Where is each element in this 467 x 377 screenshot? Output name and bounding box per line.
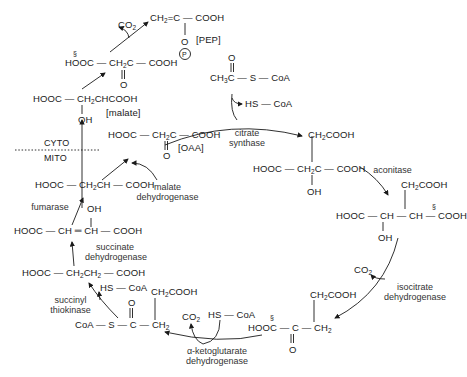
- mito-label: MITO: [44, 153, 67, 163]
- citrate-top: CH2COOH: [308, 130, 355, 140]
- hs-coa-citrate: HS — CoA: [245, 99, 292, 109]
- co2-isocitrate: CO2: [354, 265, 372, 275]
- acetyl-coa-oxygen: O: [228, 53, 236, 63]
- enzyme-isocitrate-dehydrogenase: isocitratedehydrogenase: [380, 282, 450, 302]
- citrate-main: HOOC — CH2C — COOH: [253, 164, 366, 174]
- oaa-oxygen: O: [163, 151, 171, 161]
- citrate-oh: OH: [307, 187, 321, 197]
- section-mark: §: [270, 314, 274, 321]
- pep-label: [PEP]: [196, 35, 221, 45]
- hs-coa-succinyl: HS — CoA: [100, 283, 147, 293]
- isocitrate-oh: OH: [378, 233, 392, 243]
- pep-formula: CH2=C — COOH: [150, 13, 224, 23]
- oaa-formula: HOOC — CH2C — COOH: [108, 130, 221, 140]
- enzyme-malate-dehydrogenase: malatedehydrogenase: [135, 182, 200, 202]
- isocitrate-main: HOOC — CH — CH — COOH: [336, 211, 467, 221]
- co2-akg: CO2: [182, 312, 200, 322]
- succinyl-coa-main: CoA — S — C — CH2: [75, 320, 170, 330]
- fumarate-formula: HOOC — CH ═ CH — COOH: [14, 226, 142, 236]
- enzyme-aconitase: aconitase: [370, 165, 415, 175]
- oaa-cyto-oxygen: O: [120, 80, 128, 90]
- malate-cyto-oh: OH: [78, 115, 92, 125]
- enzyme-fumarase: fumarase: [30, 202, 70, 212]
- oaa-label: [OAA]: [178, 143, 204, 153]
- enzyme-citrate-synthase: citratesynthase: [222, 128, 272, 148]
- hs-coa-akg: HS — CoA: [208, 310, 255, 320]
- enzyme-succinyl-thiokinase: succinylthiokinase: [48, 295, 93, 315]
- acetyl-coa-formula: CH3C — S — CoA: [210, 73, 290, 83]
- co2-pepck: CO2: [118, 20, 136, 30]
- akg-top: CH2COOH: [310, 290, 357, 300]
- succinyl-coa-top: CH2COOH: [151, 287, 198, 297]
- akg-oxygen: O: [289, 345, 297, 355]
- cyto-label: CYTO: [44, 138, 69, 148]
- oaa-cyto-formula: HOOC — CH2C — COOH: [65, 58, 178, 68]
- enzyme-akg-dehydrogenase: α-ketoglutaratedehydrogenase: [177, 346, 257, 366]
- section-mark: §: [432, 203, 436, 210]
- malate-cyto-label: [malate]: [106, 108, 141, 118]
- section-mark: §: [73, 50, 77, 57]
- malate-mito-oh: OH: [87, 204, 101, 214]
- pep-oxygen: O: [181, 37, 189, 47]
- phosphate-label: P: [182, 50, 187, 60]
- succinate-formula: HOOC — CH2CH2 — COOH: [22, 268, 145, 278]
- succinyl-coa-oxygen: O: [128, 298, 136, 308]
- akg-main: HOOC — C — CH2: [248, 323, 332, 333]
- isocitrate-top: CH2COOH: [401, 180, 448, 190]
- enzyme-succinate-dehydrogenase: succinatedehydrogenase: [85, 242, 145, 262]
- malate-cyto-formula: HOOC — CH2CHCOOH: [33, 94, 137, 104]
